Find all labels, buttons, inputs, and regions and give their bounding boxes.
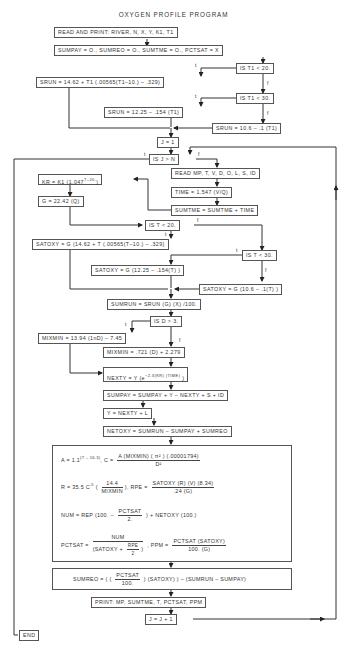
page-title: OXYGEN PROFILE PROGRAM (0, 11, 347, 18)
a-exponent: (T – 16.3) (80, 455, 100, 460)
num-frac-denominator: 2. (118, 516, 143, 523)
c-lhs: , C = (100, 457, 113, 463)
sumreo-formula: SUMREO = ( ( PCTSAT100. ) (SATOXY) ) – (… (52, 568, 292, 590)
nexty-exponent: −2.3(KR) (TIME) (145, 373, 180, 378)
mixmin-formula-2: MIXMIN = .721 (D) + 2.279 (103, 347, 185, 358)
ppm-numerator: PCTSAT (SATOXY) (172, 538, 226, 546)
kr-formula: KR = K1 (1.047T–20.) (38, 174, 102, 185)
false-label: f (197, 217, 198, 223)
sumreo-denominator: 100. (115, 580, 140, 587)
read-and-print-box: READ AND PRINT: RIVER, N, X, Y, K1, T1 (54, 27, 178, 38)
rpe-denominator: .24 (G) (152, 488, 215, 495)
rpe-half-den: 2 (127, 550, 139, 557)
satoxy-formula-3: SATOXY = G (10.6 – .1(T) ) (199, 284, 282, 295)
pctsat-numerator: NUM (93, 534, 144, 542)
print-results-box: PRINT: MP, SUMTME, T, PCTSAT, PPM (91, 597, 206, 608)
decision-t1-lt-20: IS T1 < 20. (236, 63, 274, 74)
ppm-lhs: , PPM = (147, 542, 168, 548)
rpe-half-num: RPE (127, 542, 139, 550)
r-fraction: 14.4MIXMIN (102, 480, 123, 495)
decision-t-lt-20: IS T < 20. (145, 220, 180, 231)
srun-formula-3: SRUN = 10.6 – .1 (T1) (212, 123, 281, 134)
kr-close: ) (96, 179, 98, 185)
satoxy-formula-2: SATOXY = G (12.25 – .154(T) ) (91, 265, 184, 276)
j-increment-box: J = J + 1 (145, 614, 177, 625)
decision-t-lt-30: IS T < 30. (242, 250, 277, 261)
sumreo-equation: SUMREO = ( ( PCTSAT100. ) (SATOXY) ) – (… (73, 572, 246, 587)
sumtme-formula: SUMTME = SUMTME + TIME (171, 205, 258, 216)
nexty-formula: NEXTY = Y (e−2.3(KR) (TIME) ) (103, 367, 188, 382)
num-rest: ) + NETOXY (100.) (146, 512, 197, 518)
c-numerator: A (MIXMIN) ( π² ) (.00001794) (117, 453, 200, 461)
r-lhs: R = 35.5 C (61, 484, 90, 490)
time-formula: TIME = 1.547 (V/Q) (171, 187, 232, 198)
j-init-box: J = 1 (157, 137, 179, 148)
netoxy-formula: NETOXY = SUMRUN – SUMPAY + SUMREO (103, 426, 232, 437)
satoxy-formula-1: SATOXY = G (14.62 + T (.00565(T–10.) – .… (32, 239, 169, 250)
true-label: t (236, 247, 237, 253)
false-label: f (267, 110, 268, 116)
a-c-equations: A = 1.1(T – 16.3), C = A (MIXMIN) ( π² )… (61, 453, 202, 468)
r-open: ( (94, 484, 98, 490)
r-rpe-equations: R = 35.5 C.5 ( 14.4MIXMIN), RPE = SATOXY… (61, 480, 216, 495)
false-label: f (267, 80, 268, 86)
sumreo-numerator: PCTSAT (115, 572, 140, 580)
false-label: f (265, 267, 266, 273)
end-box: END (19, 630, 39, 641)
true-label: t (165, 231, 166, 237)
true-label: t (125, 321, 126, 327)
rpe-fraction: SATOXY (R) (V) (8.34).24 (G) (152, 480, 215, 495)
c-fraction: A (MIXMIN) ( π² ) (.00001794)D² (117, 453, 200, 468)
false-label: f (198, 151, 199, 157)
read-mp-box: READ MP, T, V, D, O, L, S, ID (171, 168, 260, 179)
ppm-denominator: 100. (G) (172, 546, 226, 553)
pctsat-denominator: (SATOXY + RPE2) (93, 542, 144, 557)
mixmin-formula-1: MIXMIN = 13.94 (1nD) – 7.45 (38, 333, 126, 344)
a-lhs: A = 1.1 (61, 457, 80, 463)
decision-d-gt-3: IS D > 3. (150, 316, 182, 327)
decision-j-gt-n: IS J > N (149, 154, 179, 165)
nexty-text: NEXTY = Y (e (107, 375, 145, 381)
ppm-fraction: PCTSAT (SATOXY)100. (G) (172, 538, 226, 553)
calculation-block: A = 1.1(T – 16.3), C = A (MIXMIN) ( π² )… (52, 445, 292, 562)
num-equation: NUM = REP (100. – PCTSAT2. ) + NETOXY (1… (61, 508, 197, 523)
r-numerator: 14.4 (102, 480, 123, 488)
init-box: SUMPAY = O., SUMREO = O., SUMTME = O., P… (54, 45, 223, 56)
pctsat-ppm-equations: PCTSAT = NUM(SATOXY + RPE2) , PPM = PCTS… (61, 534, 228, 557)
true-label: t (195, 93, 196, 99)
sumreo-rest: ) (SATOXY) ) – (SUMRUN – SUMPAY) (144, 576, 246, 582)
srun-formula-1: SRUN = 14.62 + T1 (.00565(T1–10.) – .329… (36, 77, 164, 88)
nexty-close: ) (180, 375, 184, 381)
num-frac-numerator: PCTSAT (118, 508, 143, 516)
pctsat-lhs: PCTSAT = (61, 542, 89, 548)
rpe-numerator: SATOXY (R) (V) (8.34) (152, 480, 215, 488)
sumreo-fraction: PCTSAT100. (115, 572, 140, 587)
decision-t1-lt-30: IS T1 < 30. (236, 93, 274, 104)
rpe-half-fraction: RPE2 (127, 542, 139, 557)
kr-exponent: T–20. (84, 177, 96, 182)
r-close: ), RPE = (125, 484, 148, 490)
pctsat-fraction: NUM(SATOXY + RPE2) (93, 534, 144, 557)
num-fraction: PCTSAT2. (118, 508, 143, 523)
sumrun-formula: SUMRUN = SRUN (G) (X) /100. (107, 299, 201, 310)
c-denominator: D² (117, 461, 200, 468)
pctsat-den-a: (SATOXY + (93, 546, 123, 552)
true-label: t (144, 151, 145, 157)
r-denominator: MIXMIN (102, 488, 123, 495)
false-label: f (179, 337, 180, 343)
kr-text: KR = K1 (1.047 (42, 179, 84, 185)
g-formula: G = 22.42 (Q) (38, 196, 84, 207)
flowchart-canvas: OXYGEN PROFILE PROGRAM READ AND PRINT: R… (0, 0, 347, 652)
srun-formula-2: SRUN = 12.25 – .154 (T1) (104, 107, 183, 118)
pctsat-den-b: ) (141, 546, 143, 552)
num-lhs: NUM = REP (100. – (61, 512, 114, 518)
sumreo-lhs: SUMREO = ( ( (73, 576, 112, 582)
y-next-formula: Y = NEXTY + L (103, 408, 152, 419)
true-label: t (195, 62, 196, 68)
sumpay-formula: SUMPAY = SUMPAY + Y – NEXTY + S + ID (103, 390, 228, 401)
